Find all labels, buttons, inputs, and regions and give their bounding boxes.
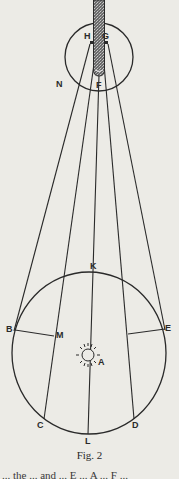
label-g: G (102, 32, 109, 41)
diagram-figure (0, 0, 179, 479)
label-m: M (56, 331, 64, 340)
chord-e (128, 329, 165, 334)
label-d: D (132, 421, 139, 430)
label-n: N (56, 80, 63, 89)
chord-b-m (15, 330, 54, 336)
label-b: B (6, 325, 13, 334)
ray-d (104, 64, 134, 419)
sun-icon (76, 343, 100, 367)
label-l: L (85, 437, 91, 446)
truncated-text-line: ... the ... and ... E ... A ... F ... (2, 470, 179, 479)
label-f: F (96, 81, 102, 90)
ray-l (88, 75, 99, 434)
rays (14, 44, 165, 434)
label-h: H (84, 32, 91, 41)
chords (15, 329, 165, 336)
label-c: C (37, 421, 44, 430)
label-e: E (165, 324, 171, 333)
ray-c (44, 64, 94, 419)
ray-h-b (14, 44, 90, 331)
ray-g-e (108, 44, 165, 330)
label-k: K (90, 262, 97, 271)
figure-caption: Fig. 2 (0, 449, 179, 461)
label-a: A (98, 358, 105, 367)
